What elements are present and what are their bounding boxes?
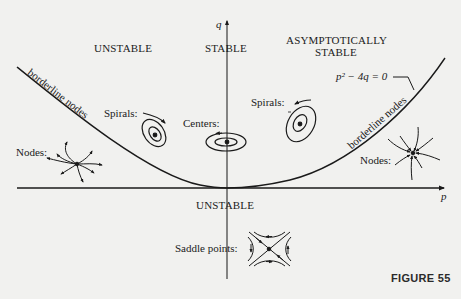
- nodes-label-right: Nodes:: [360, 154, 391, 166]
- spiral-portrait-right: [280, 100, 322, 147]
- spiral-portrait-left: [137, 113, 171, 151]
- region-label-asymptotically-line1: ASYMPTOTICALLY: [286, 34, 386, 46]
- saddle-points-label: Saddle points:: [175, 242, 238, 254]
- region-label-asymptotically-stable: ASYMPTOTICALLY STABLE: [286, 34, 386, 58]
- centers-label: Centers:: [183, 117, 220, 129]
- region-label-unstable-bottom: UNSTABLE: [196, 199, 254, 211]
- equation-pointer: [393, 77, 414, 90]
- figure: UNSTABLE STABLE ASYMPTOTICALLY STABLE UN…: [0, 0, 461, 299]
- region-label-unstable-top: UNSTABLE: [94, 42, 152, 54]
- nodes-label-left: Nodes:: [16, 146, 47, 158]
- saddle-portrait: [248, 232, 291, 266]
- spirals-label-right: Spirals:: [251, 96, 285, 108]
- axis-label-p: p: [441, 190, 447, 202]
- axis-label-q: q: [216, 18, 222, 30]
- node-portrait-right: [388, 127, 440, 180]
- region-label-stable: STABLE: [205, 42, 247, 54]
- center-portrait: [206, 133, 246, 151]
- region-label-asymptotically-line2: STABLE: [286, 46, 386, 58]
- figure-caption: FIGURE 55: [391, 272, 451, 284]
- curve-equation: p² − 4q = 0: [336, 70, 387, 82]
- spirals-label-left: Spirals:: [104, 107, 138, 119]
- node-portrait-left: [47, 142, 102, 182]
